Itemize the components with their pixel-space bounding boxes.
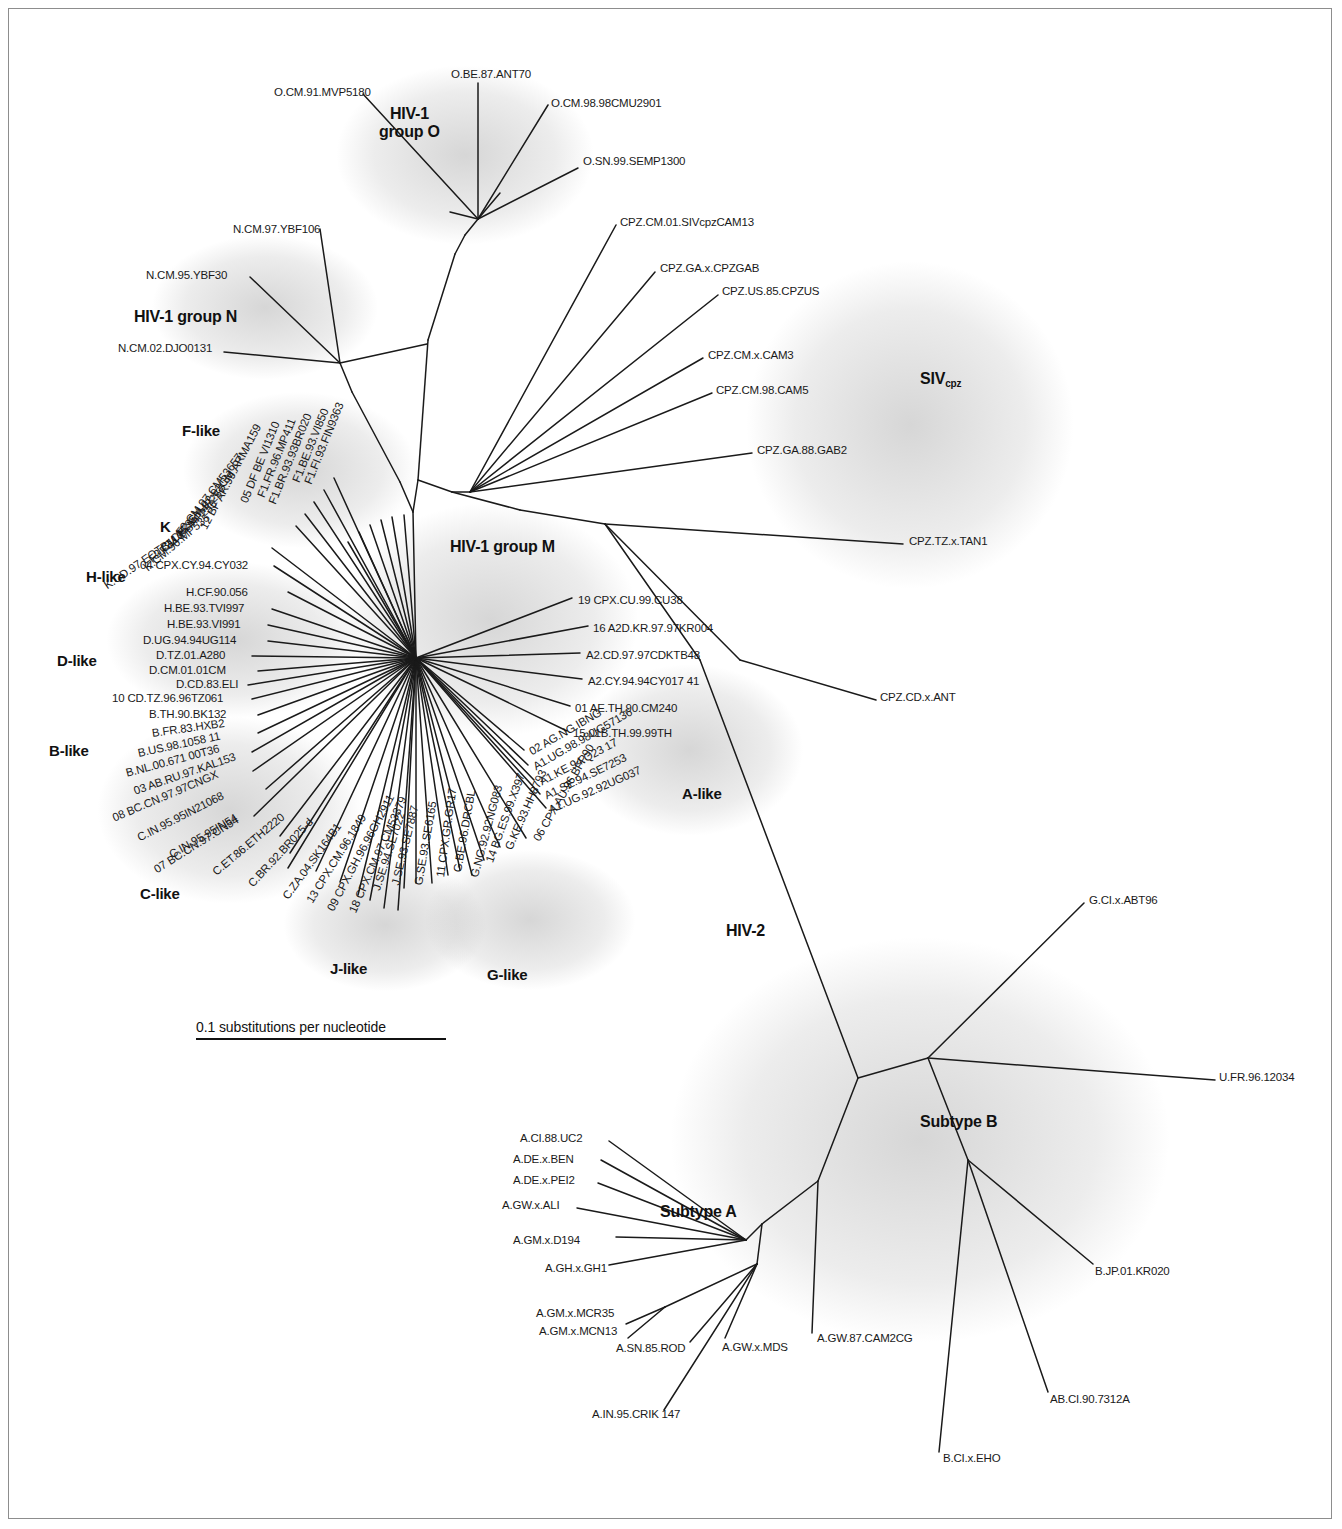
figure-page: HIV-1 group OHIV-1 group NHIV-1 group MS… [0, 0, 1342, 1529]
page-border [8, 8, 1332, 1519]
